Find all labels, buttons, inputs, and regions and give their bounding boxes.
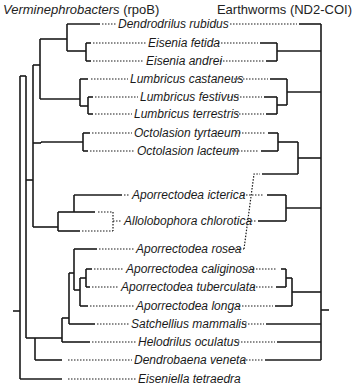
taxon-label: Aporrectodea longa [136,299,241,313]
taxon-label: Lumbricus festivus [140,90,239,104]
taxon-label: Dendrobaena veneta [134,353,246,367]
taxon-label: Dendrodrilus rubidus [118,17,229,31]
taxon-label: Eiseniella tetraedra [138,372,241,386]
taxon-label: Satchellius mammalis [131,317,247,331]
taxon-label: Helodrilus oculatus [138,335,239,349]
taxon-label: Allolobophora chlorotica [124,214,252,228]
right-tree-ND2-COI [258,24,329,360]
taxon-label: Lumbricus terrestris [134,107,239,121]
taxon-label: Lumbricus castaneus [130,72,243,86]
taxon-label: Aporrectodea icterica [132,188,245,202]
taxon-label: Octolasion lacteum [137,144,239,158]
taxon-label: Aporrectodea tuberculata [121,280,256,294]
taxon-label: Eisenia fetida [148,36,220,50]
taxon-label: Aporrectodea caliginosa [126,262,255,276]
left-tree-rpoB [13,24,122,379]
taxon-label: Octolasion tyrtaeum [134,126,241,140]
taxon-label: Aporrectodea rosea [136,242,241,256]
taxon-label: Eisenia andrei [146,54,222,68]
